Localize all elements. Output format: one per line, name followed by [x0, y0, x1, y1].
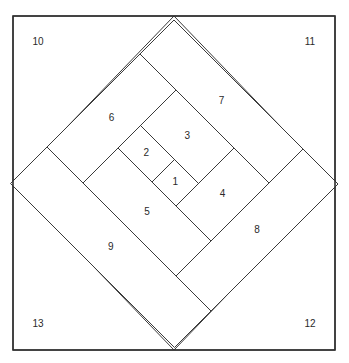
- piece-label: 12: [304, 318, 316, 329]
- piece-label: 2: [144, 147, 150, 158]
- piece-label: 10: [32, 36, 44, 47]
- piece-label: 13: [32, 318, 44, 329]
- piece-label: 1: [173, 176, 179, 187]
- piece-label: 11: [305, 36, 316, 47]
- piece-label: 9: [108, 241, 114, 252]
- piece-label: 8: [254, 224, 260, 235]
- log-cabin-diagram: 10111213123456789: [0, 0, 349, 363]
- piece-label: 6: [109, 112, 115, 123]
- piece-label: 7: [219, 95, 225, 106]
- piece-label: 3: [185, 130, 191, 141]
- piece-label: 5: [144, 206, 150, 217]
- piece-label: 4: [220, 188, 226, 199]
